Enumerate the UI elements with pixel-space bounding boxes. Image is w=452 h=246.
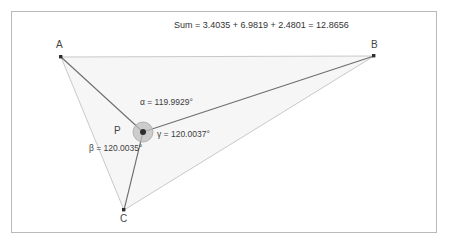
vertex-label-p: P — [114, 126, 121, 136]
vertex-label-a: A — [56, 40, 63, 50]
point-b-marker[interactable] — [372, 54, 375, 57]
vertex-label-c: C — [120, 214, 127, 224]
geometry-figure: Sum = 3.4035 + 6.9819 + 2.4801 = 12.8656… — [0, 0, 452, 246]
vertex-label-b: B — [371, 40, 378, 50]
triangle-abc-fill — [61, 56, 374, 210]
point-a-marker[interactable] — [59, 55, 62, 58]
geometry-canvas[interactable] — [0, 0, 452, 246]
angle-label-alpha: α = 119.9929° — [140, 98, 193, 107]
sum-readout: Sum = 3.4035 + 6.9819 + 2.4801 = 12.8656 — [174, 21, 349, 30]
angle-label-gamma: γ = 120.0037° — [157, 130, 210, 139]
point-p-marker[interactable] — [140, 129, 146, 135]
point-c-marker[interactable] — [122, 208, 125, 211]
angle-label-beta: β = 120.0035° — [89, 144, 142, 153]
